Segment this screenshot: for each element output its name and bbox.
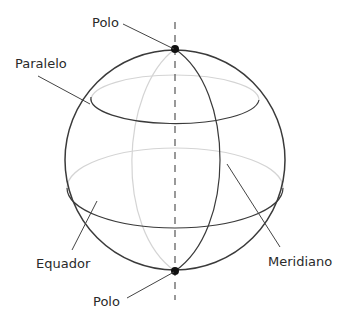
hidden-lines — [67, 49, 283, 271]
leader-pole-top — [123, 24, 174, 49]
label-equator: Equador — [36, 257, 90, 270]
leader-pole-bottom — [127, 272, 174, 298]
label-parallel: Paralelo — [15, 57, 67, 70]
globe-drawing — [0, 0, 351, 321]
pole-top-dot — [171, 45, 179, 53]
leader-parallel — [38, 76, 90, 104]
label-meridian: Meridiano — [268, 255, 332, 268]
pole-bottom-dot — [171, 267, 179, 275]
meridian-line — [175, 49, 220, 271]
globe-diagram: Polo Paralelo Equador Polo Meridiano — [0, 0, 351, 321]
label-pole-top: Polo — [92, 16, 119, 29]
label-pole-bottom: Polo — [93, 295, 120, 308]
